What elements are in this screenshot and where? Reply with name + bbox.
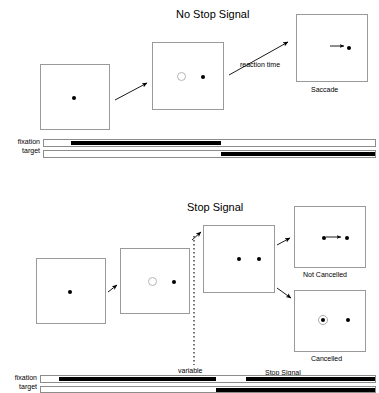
fixation-dot [237, 257, 241, 261]
frame-stop-fixation-only [36, 258, 106, 324]
timeline-label-target-bottom: target [2, 383, 37, 390]
arrow-to-not-cancelled [277, 238, 290, 245]
timeline-bar-fixation-bottom [40, 375, 376, 383]
frame-no-stop-saccade [296, 14, 368, 82]
arrow-reaction-time [229, 42, 288, 75]
fixation-dot [321, 318, 325, 322]
panel-title-stop-signal: Stop Signal [187, 201, 243, 213]
fixation-dot [322, 236, 326, 240]
frame-not-cancelled [294, 206, 366, 268]
panel-title-no-stop-signal: No Stop Signal [176, 8, 249, 20]
timeline-bar-target-top [43, 150, 376, 158]
fixation-dot [68, 290, 72, 294]
figure-canvas: No Stop Signal Saccade reaction time fix… [0, 0, 379, 393]
annotation-variable: variable [178, 367, 203, 374]
target-dot [345, 236, 349, 240]
arrow-to-cancelled [277, 288, 291, 298]
timeline-label-target-top: target [5, 147, 40, 154]
target-dot [347, 46, 351, 50]
timeline-bar-fixation-bottom-on-2 [246, 377, 375, 381]
caption-not-cancelled: Not Cancelled [303, 271, 347, 278]
frame-no-stop-fixation-only [40, 64, 110, 130]
target-dot [172, 280, 176, 284]
target-dot [257, 257, 261, 261]
timeline-bar-fixation-top-on [71, 141, 221, 145]
frame-no-stop-target-onset [152, 42, 224, 110]
timeline-label-fixation-top: fixation [5, 138, 40, 145]
target-dot [201, 75, 205, 79]
timeline-bar-fixation-bottom-on-1 [59, 377, 216, 381]
timeline-bar-target-top-on [221, 152, 375, 156]
timeline-bar-target-bottom [40, 386, 376, 393]
caption-saccade: Saccade [311, 86, 338, 93]
fixation-dimmed-ring-icon [148, 277, 157, 286]
caption-cancelled: Cancelled [311, 355, 342, 362]
frame-stop-signal-onset [203, 225, 275, 293]
frame-stop-target-onset [120, 248, 190, 314]
timeline-label-fixation-bottom: fixation [2, 374, 37, 381]
label-reaction-time: reaction time [240, 61, 280, 68]
arrow-target-to-stop-signal [192, 232, 201, 240]
timeline-bar-target-bottom-on [216, 388, 375, 392]
arrow-fixation-to-target-top [115, 83, 147, 100]
fixation-dimmed-ring-icon [177, 72, 186, 81]
arrow-fixation-to-target-bottom [108, 285, 117, 292]
fixation-dot [72, 96, 76, 100]
target-dot [346, 318, 350, 322]
frame-cancelled [294, 290, 366, 352]
timeline-bar-fixation-top [43, 139, 376, 147]
